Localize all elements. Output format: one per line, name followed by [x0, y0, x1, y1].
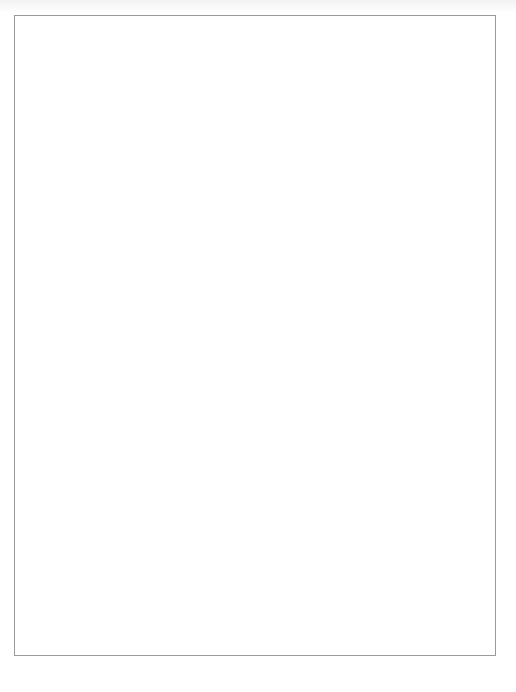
figure-card — [14, 15, 496, 656]
chart-graph-b — [15, 336, 497, 657]
chart-a-plot-area — [91, 55, 477, 283]
chart-b-plot-area — [91, 374, 477, 602]
chart-graph-a — [15, 16, 497, 336]
page-top-strip — [0, 0, 516, 13]
